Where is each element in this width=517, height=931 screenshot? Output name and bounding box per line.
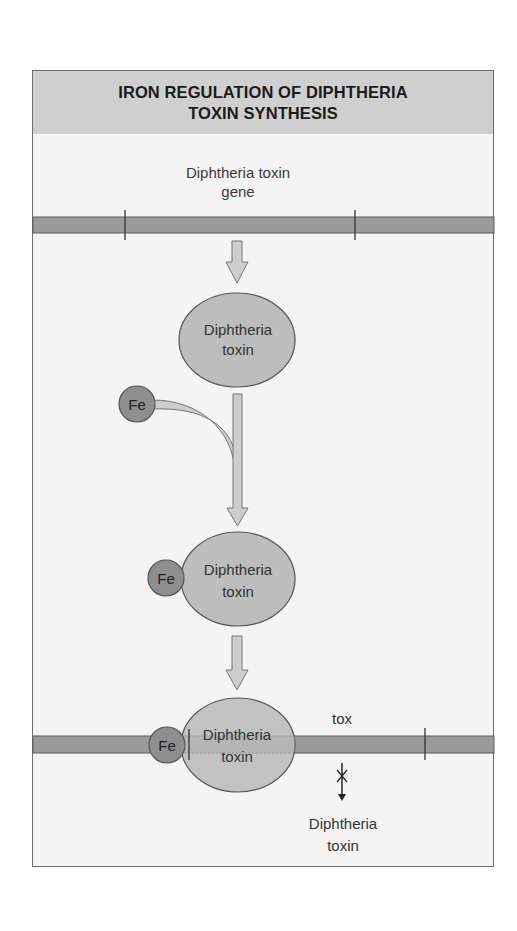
dna-strand-top — [33, 217, 494, 233]
toxin-label-2a: Diphtheria — [204, 561, 273, 578]
toxin-label-3a: Diphtheria — [203, 726, 272, 743]
toxin-protein-1 — [179, 293, 295, 387]
arrow-down-icon — [226, 241, 248, 283]
fe-label-repressor: Fe — [158, 737, 176, 754]
arrow-head-icon — [338, 794, 346, 801]
gene-label-line1: Diphtheria toxin — [168, 163, 308, 182]
fe-label-bound: Fe — [157, 570, 175, 587]
arrow-down-icon — [226, 636, 248, 690]
product-label-a: Diphtheria — [309, 815, 378, 832]
toxin-label-3b: toxin — [221, 748, 253, 765]
diagram-canvas: Fe Fe Fe Diphtheria toxin Diphtheria tox… — [0, 0, 517, 931]
toxin-protein-2 — [181, 532, 295, 626]
iron-binding-curve — [152, 400, 238, 470]
fe-label-free: Fe — [128, 396, 146, 413]
gene-label: Diphtheria toxin gene — [168, 163, 308, 201]
toxin-label-1a: Diphtheria — [204, 321, 273, 338]
arrow-down-icon — [227, 394, 248, 526]
product-label-b: toxin — [327, 837, 359, 854]
gene-label-line2: gene — [168, 182, 308, 201]
toxin-label-1b: toxin — [222, 341, 254, 358]
toxin-label-2b: toxin — [222, 583, 254, 600]
tox-gene-label: tox — [332, 710, 353, 727]
